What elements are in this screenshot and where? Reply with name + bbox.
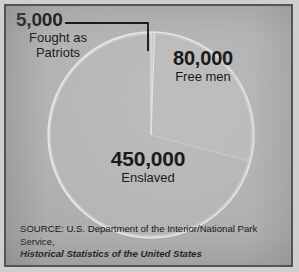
slice-label-enslaved: 450,000 Enslaved [78, 148, 218, 185]
figure-frame: 5,000 Fought as Patriots 80,000 Free men… [4, 4, 293, 267]
slice-value-free-men: 80,000 [148, 48, 258, 69]
source-line-2: Historical Statistics of the United Stat… [20, 248, 288, 261]
slice-caption-patriots-line2: Patriots [12, 46, 104, 60]
slice-value-patriots: 5,000 [12, 10, 104, 30]
slice-caption-enslaved: Enslaved [78, 171, 218, 185]
infographic-figure: 5,000 Fought as Patriots 80,000 Free men… [0, 0, 299, 272]
source-line-1: SOURCE: U.S. Department of the Interior/… [20, 223, 288, 248]
slice-caption-free-men: Free men [148, 70, 258, 84]
source-note: SOURCE: U.S. Department of the Interior/… [20, 223, 288, 261]
slice-label-patriots: 5,000 Fought as Patriots [12, 10, 104, 59]
slice-label-free-men: 80,000 Free men [148, 48, 258, 84]
slice-value-enslaved: 450,000 [78, 148, 218, 170]
slice-caption-patriots-line1: Fought as [12, 31, 104, 45]
